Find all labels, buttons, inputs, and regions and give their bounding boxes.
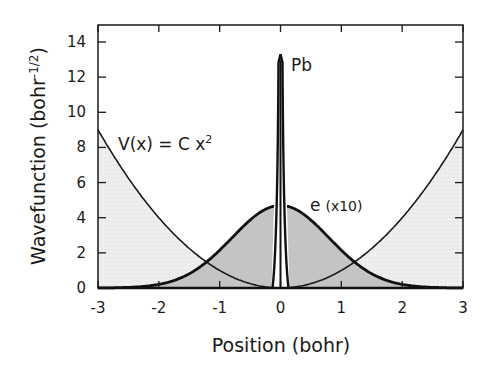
x-tick-label: -2 — [151, 299, 166, 317]
y-tick-label: 2 — [76, 244, 86, 262]
chart: -3-2-1012302468101214 Position (bohr) Wa… — [0, 0, 496, 366]
plot-area — [98, 54, 463, 288]
electron-label: e(x10) — [310, 195, 363, 215]
x-tick-label: 0 — [276, 299, 286, 317]
x-axis-title: Position (bohr) — [212, 334, 350, 356]
y-tick-label: 0 — [76, 279, 86, 297]
x-tick-label: 3 — [458, 299, 468, 317]
nucleus-label: Pb — [291, 55, 312, 75]
y-tick-label: 6 — [76, 174, 86, 192]
y-tick-label: 10 — [67, 103, 86, 121]
y-tick-label: 8 — [76, 138, 86, 156]
x-tick-label: -1 — [212, 299, 227, 317]
x-tick-label: 1 — [337, 299, 347, 317]
potential-label: V(x) = C x2 — [118, 133, 212, 154]
y-axis-title: Wavefunction (bohr-1/2) — [27, 47, 49, 265]
x-tick-label: -3 — [91, 299, 106, 317]
y-tick-label: 4 — [76, 209, 86, 227]
y-tick-label: 12 — [67, 68, 86, 86]
y-tick-label: 14 — [67, 33, 86, 51]
x-tick-label: 2 — [397, 299, 407, 317]
